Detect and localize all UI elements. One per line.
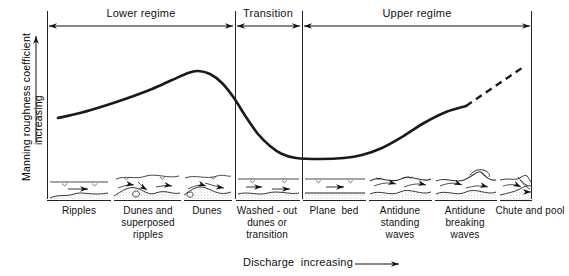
bedform-label-6: breaking bbox=[445, 218, 484, 229]
regime-label-transition: Transition bbox=[243, 8, 293, 20]
bedform-label-0: Ripples bbox=[62, 206, 96, 217]
regime-divider-lines bbox=[48, 11, 532, 199]
washed-out-dunes-sketch bbox=[238, 179, 299, 199]
plane-bed-sketch bbox=[305, 179, 365, 199]
bedform-label-1: ripples bbox=[133, 230, 163, 241]
x-axis-label: Discharge increasing bbox=[243, 257, 353, 269]
bedform-label-1: superposed bbox=[121, 218, 174, 229]
dunes-sketch bbox=[184, 175, 231, 199]
bedform-label-2: Dunes bbox=[192, 206, 221, 217]
figure-root: Manning roughness coefficient increasing… bbox=[0, 0, 569, 276]
bedform-sketch-panels bbox=[50, 170, 531, 199]
bedform-label-5: standing bbox=[381, 218, 420, 229]
y-axis-label-line2: increasing bbox=[32, 95, 44, 145]
bedform-label-5: Antidune bbox=[380, 206, 420, 217]
bedform-label-3: dunes or bbox=[247, 218, 287, 229]
bedform-label-6: Antidune bbox=[445, 206, 485, 217]
bedform-label-4: Plane bed bbox=[310, 206, 359, 217]
bedform-label-1: Dunes and bbox=[123, 206, 172, 217]
dunes-superposed-ripples-sketch bbox=[114, 175, 180, 199]
bedform-label-6: waves bbox=[451, 230, 480, 241]
regime-label-lower: Lower regime bbox=[106, 8, 175, 20]
antidune-standing-waves-sketch bbox=[370, 177, 431, 200]
chute-and-pool-sketch bbox=[500, 175, 531, 199]
roughness-curve-dashed-extrapolation bbox=[466, 68, 522, 106]
roughness-curve-solid bbox=[58, 71, 466, 159]
bedform-label-7: Chute and pool bbox=[495, 206, 564, 217]
bedform-label-3: Washed - out bbox=[237, 206, 297, 217]
bedform-label-5: waves bbox=[386, 230, 415, 241]
y-axis-label-line1: Manning roughness coefficient bbox=[20, 33, 32, 181]
ripples-sketch bbox=[50, 182, 108, 199]
bedform-label-3: transition bbox=[246, 230, 288, 241]
antidune-breaking-waves-sketch bbox=[436, 170, 496, 199]
regime-label-upper: Upper regime bbox=[382, 8, 451, 20]
